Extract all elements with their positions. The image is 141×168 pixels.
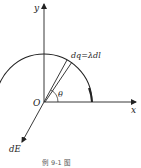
field-element-label: dE: [9, 144, 21, 154]
y-axis-label: y: [33, 3, 40, 13]
charge-element-line-1: [44, 60, 67, 102]
field-element-arrow: [22, 102, 44, 142]
charge-element-label: dq=λdl: [71, 51, 101, 60]
theta-label: θ: [58, 90, 63, 99]
arc-end-segment: [89, 88, 92, 102]
semicircle-charge-diagram: y x O θ dq=λdl dE 例 9-1 图: [0, 0, 141, 168]
x-axis-label: x: [131, 105, 136, 115]
origin-label: O: [33, 98, 41, 108]
figure-caption: 例 9-1 图: [42, 158, 71, 167]
semicircle-arc: [0, 54, 92, 102]
